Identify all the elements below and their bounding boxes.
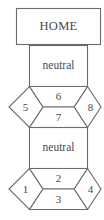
node-label-4: 4: [82, 184, 99, 195]
node-label-7: 7: [50, 112, 67, 123]
node-label-8: 8: [82, 102, 99, 113]
node-label-1: 1: [17, 184, 34, 195]
node-label-5: 5: [17, 102, 34, 113]
neutral-lower-label: neutral: [29, 142, 88, 154]
neutral-upper-label: neutral: [29, 60, 88, 72]
node-label-6: 6: [50, 91, 67, 102]
home-label: HOME: [16, 20, 101, 33]
diagram-canvas: HOME neutral 5 6 7 8 neutral 1 2 3 4: [0, 0, 104, 220]
node-label-3: 3: [50, 194, 67, 205]
node-label-2: 2: [50, 173, 67, 184]
